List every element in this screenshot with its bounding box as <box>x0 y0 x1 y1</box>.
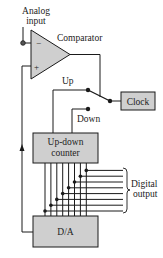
adc-diagram: Analog input − + Comparator Up Down Cloc… <box>0 0 163 258</box>
up-label: Up <box>62 76 74 86</box>
analog-input-label: Analog <box>22 6 50 16</box>
analog-input-terminal <box>21 41 26 46</box>
comparator-output-wire <box>70 55 100 98</box>
clock-label: Clock <box>127 97 150 107</box>
tap-dot-4 <box>67 186 71 190</box>
counter-label-2: counter <box>51 148 80 158</box>
digital-output-label-2: output <box>133 189 158 199</box>
tap-dot-2 <box>55 198 59 202</box>
tap-dot-3 <box>61 192 65 196</box>
digital-output-label-1: Digital <box>131 179 158 189</box>
down-contact <box>86 107 90 111</box>
digital-output-brace <box>123 168 130 213</box>
digital-bus <box>43 163 123 216</box>
down-label: Down <box>77 114 100 124</box>
up-wire <box>53 90 88 133</box>
tap-dot-0 <box>43 209 47 213</box>
comparator-label: Comparator <box>57 33 103 43</box>
switch-arm <box>88 90 110 101</box>
tap-dot-7 <box>85 169 89 173</box>
comparator-plus: + <box>34 62 39 72</box>
comparator-minus: − <box>36 38 41 48</box>
feedback-arrow-icon <box>20 144 25 151</box>
tap-dot-6 <box>79 174 83 178</box>
tap-dot-5 <box>73 180 77 184</box>
tap-dot-1 <box>49 203 53 207</box>
dac-label: D/A <box>57 227 74 237</box>
counter-label-1: Up-down <box>48 137 84 147</box>
analog-input-label-2: input <box>26 16 46 26</box>
